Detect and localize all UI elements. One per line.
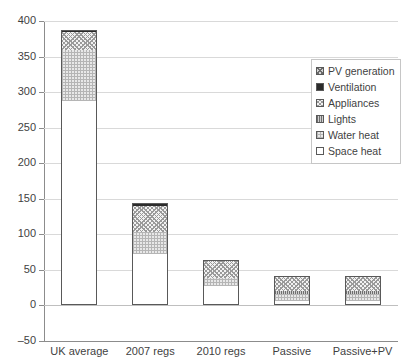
x-axis-label-passive: Passive: [256, 345, 327, 357]
bar-segment-space[interactable]: [203, 286, 239, 306]
water-heat-swatch-icon: [316, 131, 324, 139]
legend-item[interactable]: Water heat: [316, 127, 395, 143]
x-axis-line: [44, 341, 398, 342]
legend-item-label: Ventilation: [328, 82, 376, 93]
bar-group: [345, 304, 381, 305]
legend-item-label: PV generation: [328, 66, 395, 77]
bar-segment-lights[interactable]: [274, 291, 310, 294]
bar-segment-space[interactable]: [345, 301, 381, 305]
y-axis-label--50: –50: [0, 335, 36, 346]
bar-segment-appliances[interactable]: [203, 261, 239, 278]
bar-segment-space[interactable]: [61, 101, 97, 305]
bar-segment-space[interactable]: [132, 254, 168, 305]
y-axis-label-50: 50: [0, 264, 36, 275]
bar-group: [61, 304, 97, 305]
legend-item-label: Lights: [328, 114, 356, 125]
x-axis-label-uk-average: UK average: [44, 345, 115, 357]
legend-item-label: Space heat: [328, 146, 381, 157]
appliances-swatch-icon: [316, 99, 324, 107]
legend-item-label: Water heat: [328, 130, 379, 141]
bar-segment-ventilation[interactable]: [345, 276, 381, 277]
space-heat-swatch-icon: [316, 147, 324, 155]
bar-segment-water[interactable]: [274, 294, 310, 301]
ventilation-swatch-icon: [316, 83, 324, 91]
bar-segment-lights[interactable]: [345, 291, 381, 294]
y-axis-label-0: 0: [0, 299, 36, 310]
bar-segment-space[interactable]: [274, 301, 310, 305]
x-axis-label-2010-regs: 2010 regs: [186, 345, 257, 357]
bar-segment-ventilation[interactable]: [274, 276, 310, 277]
y-axis-label-150: 150: [0, 193, 36, 204]
bar-group: [274, 304, 310, 305]
legend-item[interactable]: Ventilation: [316, 79, 395, 95]
stacked-bar-chart: 400350300250200150100500–50 UK average20…: [0, 0, 417, 358]
bar-group: [203, 304, 239, 305]
bar-segment-appliances[interactable]: [345, 277, 381, 291]
bar-segment-appliances[interactable]: [61, 32, 97, 50]
chart-legend: PV generationVentilationAppliancesLights…: [311, 59, 401, 164]
bar-segment-water[interactable]: [203, 278, 239, 285]
bar-group: [132, 304, 168, 305]
bar-segment-appliances[interactable]: [132, 206, 168, 232]
x-axis-label-2007-regs: 2007 regs: [115, 345, 186, 357]
legend-item[interactable]: Lights: [316, 111, 395, 127]
bar-segment-appliances[interactable]: [274, 277, 310, 291]
legend-item[interactable]: Appliances: [316, 95, 395, 111]
bar-segment-ventilation[interactable]: [203, 260, 239, 261]
bar-segment-ventilation[interactable]: [61, 30, 97, 33]
y-axis-label-250: 250: [0, 122, 36, 133]
bar-segment-water[interactable]: [132, 232, 168, 255]
bar-segment-water[interactable]: [345, 294, 381, 301]
legend-item[interactable]: Space heat: [316, 143, 395, 159]
bar-segment-ventilation[interactable]: [132, 203, 168, 206]
legend-item[interactable]: PV generation: [316, 63, 395, 79]
y-axis-label-300: 300: [0, 86, 36, 97]
lights-swatch-icon: [316, 115, 324, 123]
pv-swatch-icon: [316, 67, 324, 75]
y-axis-label-100: 100: [0, 228, 36, 239]
bar-segment-water[interactable]: [61, 50, 97, 101]
y-axis-label-400: 400: [0, 15, 36, 26]
x-axis-label-passive-pv: Passive+PV: [327, 345, 398, 357]
y-axis-label-200: 200: [0, 157, 36, 168]
x-axis-labels: UK average2007 regs2010 regsPassivePassi…: [44, 345, 398, 358]
legend-item-label: Appliances: [328, 98, 379, 109]
y-axis-label-350: 350: [0, 51, 36, 62]
